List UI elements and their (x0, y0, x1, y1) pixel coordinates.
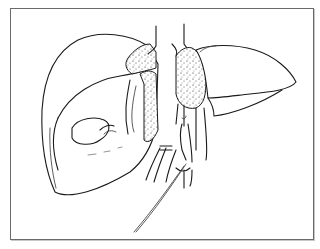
liver-illustration (0, 0, 320, 249)
right-lobe (196, 46, 296, 117)
